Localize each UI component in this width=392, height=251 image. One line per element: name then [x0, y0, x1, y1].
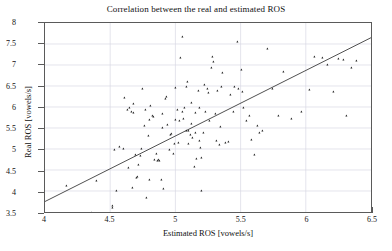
- data-point: [180, 57, 182, 59]
- data-point: [350, 66, 352, 68]
- y-tick-label: 4.5: [0, 166, 16, 175]
- data-point: [194, 111, 196, 113]
- data-point: [222, 71, 224, 73]
- data-point: [144, 108, 146, 110]
- data-point: [186, 80, 188, 82]
- data-point: [197, 89, 199, 91]
- data-point: [160, 178, 162, 180]
- data-point: [182, 117, 184, 119]
- data-point: [172, 152, 174, 154]
- data-point: [232, 111, 234, 113]
- data-point: [332, 90, 334, 92]
- data-point: [202, 131, 204, 133]
- data-point: [213, 60, 215, 62]
- x-tick-label: 6.5: [352, 215, 392, 224]
- y-tick-mark: [38, 213, 44, 214]
- y-tick-label: 7: [0, 60, 16, 69]
- data-point: [131, 187, 133, 189]
- data-point: [248, 115, 250, 117]
- data-point: [161, 113, 163, 115]
- data-point: [227, 140, 229, 142]
- data-point: [168, 149, 170, 151]
- data-point: [91, 211, 93, 212]
- chart-figure: Correlation between the real and estimat…: [0, 0, 392, 251]
- data-point: [113, 149, 115, 151]
- data-point: [242, 90, 244, 92]
- data-point: [150, 104, 152, 106]
- data-point: [185, 85, 187, 87]
- data-point: [140, 148, 142, 150]
- data-point: [188, 130, 190, 132]
- y-tick-label: 5.5: [0, 124, 16, 133]
- data-point: [207, 91, 209, 93]
- data-point: [165, 96, 167, 98]
- data-point: [343, 59, 345, 61]
- data-point: [201, 189, 203, 191]
- data-point: [181, 111, 183, 113]
- data-point: [209, 120, 211, 122]
- data-point: [122, 148, 124, 150]
- data-point: [173, 142, 175, 144]
- y-tick-label: 3.5: [0, 209, 16, 218]
- data-point: [159, 159, 161, 161]
- data-point: [129, 106, 131, 108]
- data-point: [290, 117, 292, 119]
- data-point: [261, 130, 263, 132]
- data-point: [196, 157, 198, 159]
- data-point: [118, 145, 120, 147]
- plot-area: [44, 22, 372, 213]
- data-point: [155, 152, 157, 154]
- y-tick-label: 8: [0, 18, 16, 27]
- data-point: [201, 156, 203, 158]
- data-point: [256, 124, 258, 126]
- data-point: [143, 124, 145, 126]
- data-point: [189, 134, 191, 136]
- data-point: [240, 68, 242, 70]
- data-point: [301, 111, 303, 113]
- data-point: [206, 87, 208, 89]
- chart-title: Correlation between the real and estimat…: [0, 4, 392, 14]
- data-point: [251, 138, 253, 140]
- y-tick-label: 6: [0, 102, 16, 111]
- x-tick-mark: [372, 207, 373, 213]
- data-point: [164, 98, 166, 100]
- x-tick-label: 4.5: [90, 215, 130, 224]
- data-point: [198, 139, 200, 141]
- data-point: [133, 102, 135, 104]
- data-point: [161, 127, 163, 129]
- data-point: [96, 180, 98, 182]
- data-point: [230, 94, 232, 96]
- data-point: [314, 55, 316, 57]
- y-tick-label: 7.5: [0, 39, 16, 48]
- data-point: [142, 87, 144, 89]
- data-point: [171, 133, 173, 135]
- data-point: [308, 88, 310, 90]
- data-point: [146, 197, 148, 199]
- data-point: [221, 85, 223, 87]
- x-tick-label: 4: [24, 215, 64, 224]
- data-point: [139, 155, 141, 157]
- data-point: [176, 108, 178, 110]
- data-point: [238, 87, 240, 89]
- data-point: [179, 120, 181, 122]
- data-point: [215, 139, 217, 141]
- data-point: [218, 144, 220, 146]
- data-point: [236, 40, 238, 42]
- data-point: [112, 207, 114, 209]
- y-axis-label: Real ROS [vowels/s]: [23, 52, 33, 192]
- data-point: [175, 86, 177, 88]
- data-point: [126, 108, 128, 110]
- data-point: [147, 134, 149, 136]
- data-point: [190, 101, 192, 103]
- data-point: [214, 113, 216, 115]
- data-point: [177, 141, 179, 143]
- data-point: [167, 123, 169, 125]
- data-point: [134, 153, 136, 155]
- data-point: [234, 85, 236, 87]
- data-point: [175, 118, 177, 120]
- data-point: [356, 60, 358, 62]
- data-point: [200, 147, 202, 149]
- data-point: [253, 154, 255, 156]
- data-point: [190, 122, 192, 124]
- data-point: [188, 142, 190, 144]
